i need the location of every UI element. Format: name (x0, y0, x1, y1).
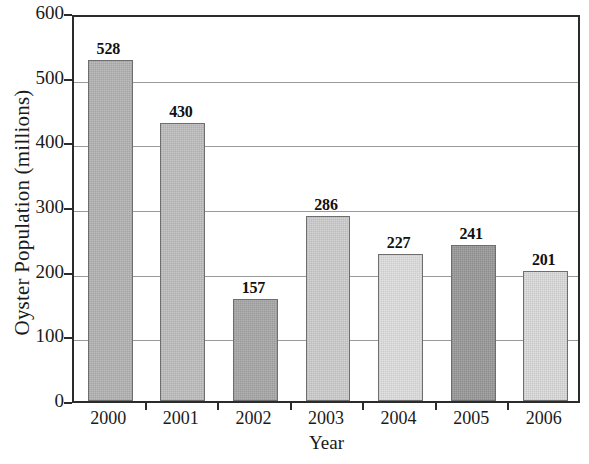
bar[interactable] (160, 123, 205, 401)
y-tick-mark (64, 143, 72, 145)
x-tick-label: 2005 (436, 408, 506, 429)
bar-value-label: 227 (369, 234, 429, 252)
y-tick-mark (64, 337, 72, 339)
bar[interactable] (233, 299, 278, 401)
bar[interactable] (88, 60, 133, 401)
y-tick-mark (64, 14, 72, 16)
y-tick-label: 400 (14, 131, 64, 153)
y-tick-label: 200 (14, 261, 64, 283)
y-tick-label: 600 (14, 2, 64, 24)
bar-value-label: 241 (441, 225, 501, 243)
x-tick-label: 2001 (146, 408, 216, 429)
y-tick-mark (64, 273, 72, 275)
bar-value-label: 201 (514, 251, 574, 269)
x-tick-label: 2002 (218, 408, 288, 429)
x-tick-label: 2000 (73, 408, 143, 429)
bar[interactable] (378, 254, 423, 401)
y-tick-mark (64, 208, 72, 210)
y-tick-mark (64, 402, 72, 404)
x-axis-title: Year (72, 432, 581, 454)
y-tick-label: 0 (14, 390, 64, 412)
x-tick-label: 2004 (364, 408, 434, 429)
bar-value-label: 528 (78, 40, 138, 58)
y-tick-mark (64, 79, 72, 81)
x-tick-label: 2003 (291, 408, 361, 429)
bar-value-label: 286 (296, 196, 356, 214)
y-tick-label: 300 (14, 196, 64, 218)
y-tick-label: 100 (14, 325, 64, 347)
bar[interactable] (306, 216, 351, 401)
bar[interactable] (451, 245, 496, 401)
bar-value-label: 430 (151, 103, 211, 121)
bar[interactable] (523, 271, 568, 401)
bar-value-label: 157 (223, 279, 283, 297)
bar-chart: Oyster Population (millions) 01002003004… (0, 0, 589, 464)
x-tick-label: 2006 (509, 408, 579, 429)
y-tick-label: 500 (14, 67, 64, 89)
